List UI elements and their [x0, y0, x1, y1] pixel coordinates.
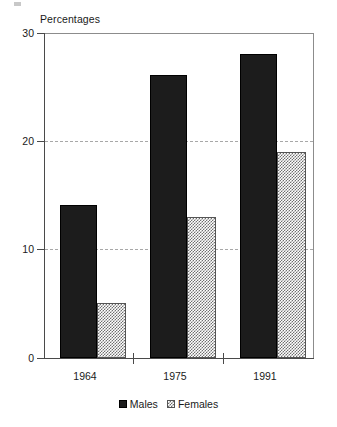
y-tick-label-30: 30 — [2, 28, 34, 39]
y-tick-label-20: 20 — [2, 136, 34, 147]
legend-swatch-females-icon — [167, 400, 175, 408]
legend-entry-females[interactable]: Females — [167, 398, 218, 410]
y-tick-label-30-wrap: 30 — [0, 28, 34, 39]
bar-males-1964[interactable] — [60, 205, 97, 358]
bar-chart-figure: Percentages 30 20 10 0 1964 1975 1991 — [0, 0, 337, 427]
bar-females-1964[interactable] — [97, 303, 126, 358]
bar-females-1991[interactable] — [277, 152, 306, 358]
y-axis-title: Percentages — [40, 13, 100, 25]
x-axis-line — [44, 358, 314, 359]
chart-legend: Males Females — [0, 398, 337, 410]
legend-swatch-males-icon — [119, 400, 127, 408]
bar-females-1975[interactable] — [187, 217, 216, 358]
scan-artifact-speck — [14, 2, 21, 6]
x-category-label-1964: 1964 — [60, 370, 110, 382]
legend-label-males: Males — [130, 398, 158, 410]
bar-males-1991[interactable] — [240, 54, 277, 358]
y-tick-label-0: 0 — [2, 353, 34, 364]
y-tick-label-10: 10 — [2, 244, 34, 255]
y-tick-label-20-wrap: 20 — [0, 136, 34, 147]
bars-layer — [44, 33, 314, 358]
y-tick-label-0-wrap: 0 — [0, 353, 34, 364]
x-category-label-1991: 1991 — [240, 370, 290, 382]
bar-males-1975[interactable] — [150, 75, 187, 358]
legend-label-females: Females — [178, 398, 218, 410]
x-category-label-1975: 1975 — [150, 370, 200, 382]
y-tick-label-10-wrap: 10 — [0, 244, 34, 255]
legend-entry-males[interactable]: Males — [119, 398, 158, 410]
y-tick-mark-0 — [37, 358, 45, 359]
